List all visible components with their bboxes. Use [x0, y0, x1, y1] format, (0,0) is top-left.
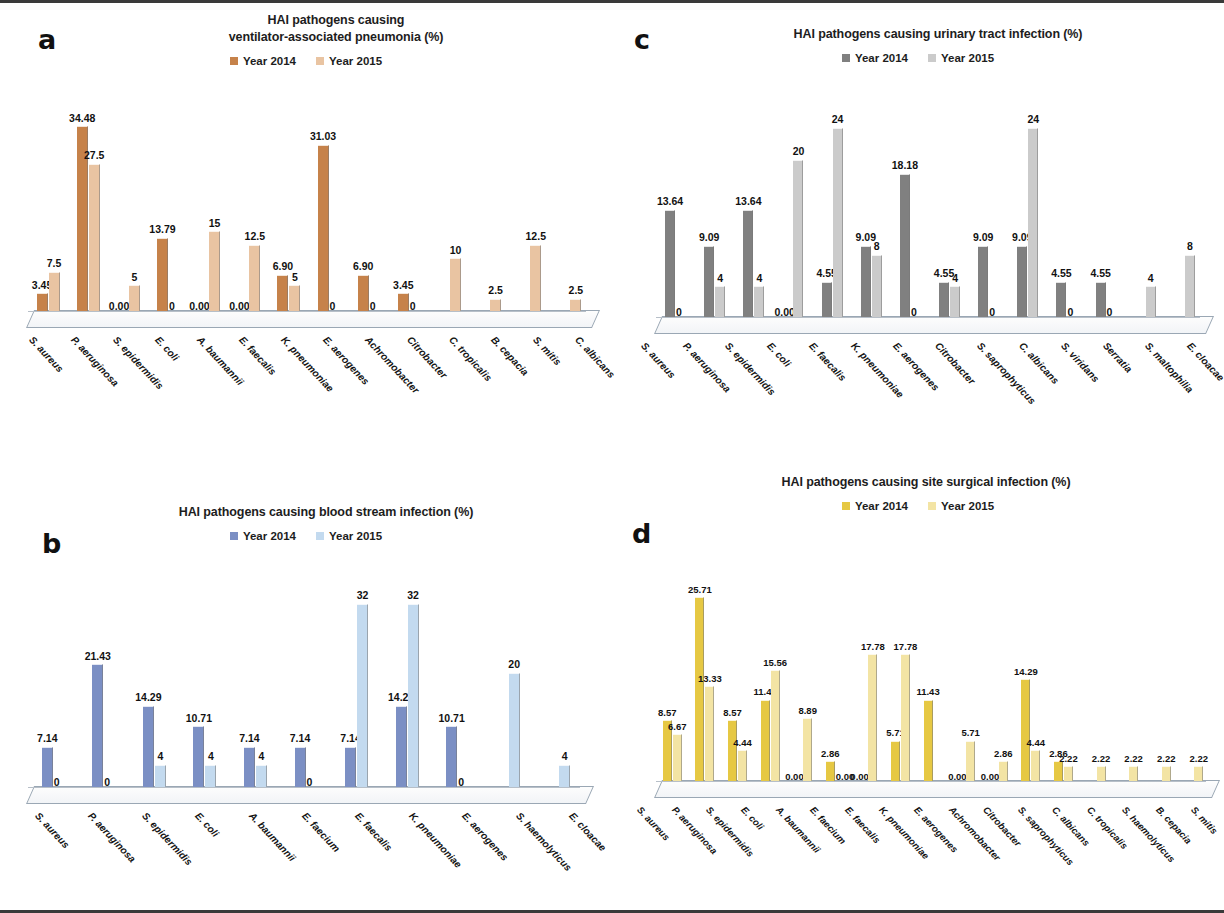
bar[interactable]: [738, 750, 747, 782]
bar[interactable]: [950, 286, 960, 318]
legend-item-2014[interactable]: Year 2014: [230, 530, 296, 542]
bar[interactable]: [1162, 766, 1171, 782]
bar[interactable]: [1097, 766, 1106, 782]
bar[interactable]: [398, 293, 409, 312]
bar[interactable]: [861, 246, 871, 318]
bar[interactable]: [277, 275, 288, 312]
bar[interactable]: [999, 761, 1008, 782]
bar[interactable]: [295, 747, 306, 788]
bar[interactable]: [450, 258, 461, 312]
bar[interactable]: [408, 604, 419, 788]
bar[interactable]: [924, 700, 933, 782]
bar[interactable]: [1129, 766, 1138, 782]
bar[interactable]: [793, 160, 803, 318]
bar[interactable]: [761, 700, 770, 782]
bar[interactable]: [705, 686, 714, 782]
bar-slot: [438, 100, 449, 312]
bar[interactable]: [37, 293, 48, 312]
legend-item-2014[interactable]: Year 2014: [230, 55, 296, 67]
bar[interactable]: [673, 734, 682, 782]
bar[interactable]: [358, 275, 369, 312]
bar[interactable]: [89, 164, 100, 312]
bar[interactable]: [704, 246, 714, 318]
bar-value-label: 12.5: [526, 231, 546, 242]
bar[interactable]: [42, 747, 53, 788]
bar[interactable]: [490, 299, 501, 312]
bar[interactable]: [743, 210, 753, 318]
bar[interactable]: [1096, 282, 1106, 318]
bar[interactable]: [901, 654, 910, 782]
bar-group: 0.005.71: [949, 570, 982, 782]
legend-swatch-2015-icon: [316, 57, 324, 65]
bar[interactable]: [833, 128, 843, 318]
bar[interactable]: [1017, 246, 1027, 318]
bar[interactable]: [868, 654, 877, 782]
bar[interactable]: [826, 761, 835, 782]
bar[interactable]: [129, 285, 140, 312]
bar[interactable]: [715, 286, 725, 318]
bar[interactable]: [193, 726, 204, 788]
bar[interactable]: [143, 706, 154, 788]
bar[interactable]: [891, 741, 900, 782]
bar[interactable]: [754, 286, 764, 318]
bar[interactable]: [289, 285, 300, 312]
bar[interactable]: [318, 145, 329, 312]
bar-slot: [1174, 94, 1184, 318]
bar[interactable]: [92, 664, 103, 788]
legend-item-2015[interactable]: Year 2015: [316, 55, 382, 67]
bar[interactable]: [256, 765, 267, 788]
panel-a-title-line2: ventilator-associated pneumonia (%): [60, 29, 612, 46]
bar[interactable]: [396, 706, 407, 788]
bar[interactable]: [559, 765, 570, 788]
bar-slot: 4.55: [1096, 94, 1106, 318]
bar[interactable]: [205, 765, 216, 788]
bar[interactable]: [1064, 766, 1073, 782]
legend-item-2014[interactable]: Year 2014: [842, 500, 908, 512]
bar[interactable]: [978, 246, 988, 318]
bar[interactable]: [695, 597, 704, 782]
bar[interactable]: [728, 720, 737, 782]
bar[interactable]: [939, 282, 949, 318]
bar[interactable]: [49, 272, 60, 312]
bar[interactable]: [771, 670, 780, 782]
bar[interactable]: [1194, 766, 1203, 782]
bar[interactable]: [357, 604, 368, 788]
bar[interactable]: [509, 673, 520, 788]
bar[interactable]: [1056, 282, 1066, 318]
bar[interactable]: [1146, 286, 1156, 318]
bar[interactable]: [530, 245, 541, 312]
bar[interactable]: [1031, 750, 1040, 782]
bar-group: 0.008.89: [786, 570, 819, 782]
bar[interactable]: [1185, 255, 1195, 318]
bar[interactable]: [665, 210, 675, 318]
bar-slot: 3.45: [398, 100, 409, 312]
bar[interactable]: [249, 245, 260, 312]
legend-item-2015[interactable]: Year 2015: [316, 530, 382, 542]
bar-group: 20: [483, 574, 534, 788]
legend-item-2015[interactable]: Year 2015: [928, 500, 994, 512]
bar[interactable]: [570, 299, 581, 312]
bar[interactable]: [446, 726, 457, 788]
bar[interactable]: [872, 255, 882, 318]
legend-swatch-2015-icon: [928, 54, 936, 62]
bar[interactable]: [803, 718, 812, 782]
bar-slot: 10: [450, 100, 461, 312]
bar-slot: [1135, 94, 1145, 318]
bar[interactable]: [244, 747, 255, 788]
legend-item-2015[interactable]: Year 2015: [928, 52, 994, 64]
x-axis-cell: Citrobacter: [392, 330, 434, 416]
bar-slot: 24: [833, 94, 843, 318]
bar[interactable]: [900, 174, 910, 318]
bar[interactable]: [1028, 128, 1038, 318]
bar[interactable]: [1021, 679, 1030, 782]
bar[interactable]: [1054, 761, 1063, 782]
bar[interactable]: [209, 231, 220, 312]
bar-group: 3.450: [389, 100, 429, 312]
bar[interactable]: [155, 765, 166, 788]
x-axis-cell: Achromobacter: [350, 330, 392, 416]
bar[interactable]: [157, 238, 168, 312]
bar[interactable]: [966, 741, 975, 782]
bar[interactable]: [822, 282, 832, 318]
legend-item-2014[interactable]: Year 2014: [842, 52, 908, 64]
bar[interactable]: [345, 747, 356, 788]
